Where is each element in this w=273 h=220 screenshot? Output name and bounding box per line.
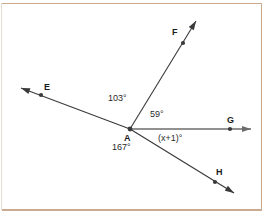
point-dot-f (181, 41, 185, 45)
angle-label-fag: 59° (150, 110, 164, 119)
angle-label-eah: 167° (112, 143, 131, 152)
point-label-f: F (172, 28, 178, 37)
arrowhead-ae (21, 88, 30, 94)
point-label-g: G (227, 116, 234, 125)
geometry-figure (0, 0, 273, 220)
arrowhead-ag (242, 126, 251, 132)
point-label-h: H (216, 168, 223, 177)
point-dot-h (213, 180, 217, 184)
arrowhead-ah (225, 186, 234, 193)
point-dot-a (128, 127, 133, 132)
angle-label-gah: (x+1)° (158, 134, 182, 143)
angle-label-eaf: 103° (108, 94, 127, 103)
point-dot-g (228, 127, 232, 131)
point-label-e: E (44, 83, 50, 92)
arrowhead-af (189, 21, 196, 30)
diagram-page: E F G H A 103° 59° (x+1)° 167° (0, 0, 273, 220)
point-dot-e (39, 93, 43, 97)
